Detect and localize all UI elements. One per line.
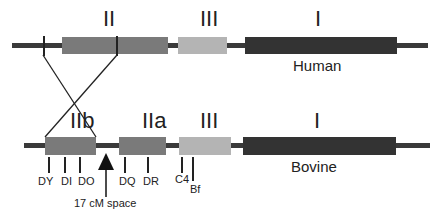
gene-tick-do	[79, 157, 81, 173]
bovine-class-i-region	[243, 137, 396, 155]
human-class-ii-region	[62, 37, 168, 54]
gene-label-dr: DR	[143, 175, 159, 187]
human-breakpoint-right	[116, 36, 118, 56]
human-species-label: Human	[293, 57, 341, 74]
bovine-class-i-label: I	[314, 110, 320, 132]
human-class-iii-region	[178, 37, 227, 54]
gene-tick-dr	[147, 157, 149, 173]
arrow-up-icon	[98, 153, 114, 170]
bovine-class-iii-label: III	[200, 110, 218, 132]
gene-label-dy: DY	[38, 175, 53, 187]
human-class-ii-label: II	[103, 8, 115, 30]
gene-label-c4: C4	[175, 173, 189, 185]
gene-label-di: DI	[61, 175, 72, 187]
gene-tick-dq	[124, 157, 126, 173]
bovine-class-iib-label: IIb	[70, 110, 94, 132]
human-class-i-region	[245, 37, 397, 54]
human-breakpoint-left	[43, 36, 45, 56]
bovine-class-iib-region	[45, 137, 96, 155]
human-class-iii-label: III	[200, 8, 218, 30]
gene-label-do: DO	[78, 175, 95, 187]
gene-tick-dy	[48, 157, 50, 173]
inversion-lines	[0, 0, 445, 221]
bovine-class-iia-label: IIa	[142, 110, 166, 132]
human-class-i-label: I	[315, 8, 321, 30]
bovine-class-iii-region	[179, 137, 231, 155]
bovine-species-label: Bovine	[291, 158, 337, 175]
bovine-class-iia-region	[119, 137, 166, 155]
spacing-annotation: 17 cM space	[74, 197, 136, 209]
gene-label-bf: Bf	[190, 183, 200, 195]
gene-tick-di	[64, 157, 66, 173]
gene-tick-c4	[181, 157, 183, 173]
gene-label-dq: DQ	[119, 175, 136, 187]
gene-tick-bf	[192, 157, 194, 181]
